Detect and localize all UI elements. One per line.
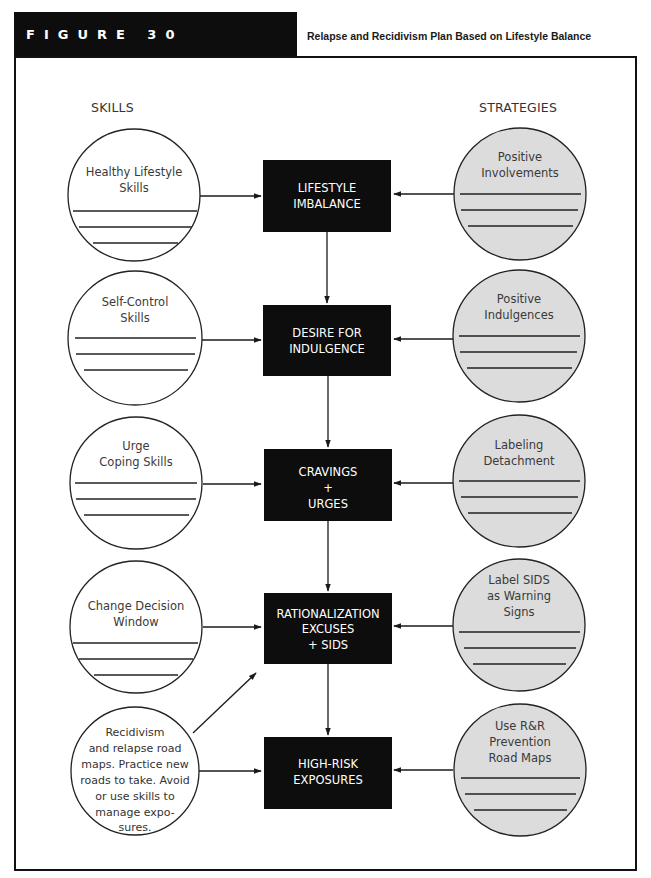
stage-box-cravings-urges: CRAVINGS + URGES — [264, 449, 392, 521]
svg-text:+ SIDS: + SIDS — [308, 638, 348, 652]
svg-text:Healthy Lifestyle: Healthy Lifestyle — [86, 165, 183, 179]
svg-text:LIFESTYLE: LIFESTYLE — [298, 181, 357, 195]
flow-diagram: LIFESTYLE IMBALANCE DESIRE FOR INDULGENC… — [0, 0, 651, 878]
svg-text:Coping Skills: Coping Skills — [99, 455, 172, 469]
svg-text:RATIONALIZATION: RATIONALIZATION — [276, 607, 379, 621]
skill-circle-urge-coping: Urge Coping Skills — [70, 417, 202, 549]
svg-text:Prevention: Prevention — [489, 735, 550, 749]
stage-box-rationalization: RATIONALIZATION EXCUSES + SIDS — [264, 593, 392, 664]
svg-text:Use R&R: Use R&R — [495, 719, 545, 733]
strategy-circle-positive-indulgences: Positive Indulgences — [453, 270, 585, 402]
svg-text:Road Maps: Road Maps — [489, 751, 552, 765]
svg-text:or use skills to: or use skills to — [95, 790, 175, 803]
svg-text:sures.: sures. — [119, 821, 152, 834]
svg-text:Indulgences: Indulgences — [484, 308, 554, 322]
svg-text:Self-Control: Self-Control — [102, 295, 169, 309]
diagonal-arrow — [193, 673, 256, 733]
skill-arrows — [193, 196, 261, 771]
skill-circle-healthy-lifestyle: Healthy Lifestyle Skills — [68, 129, 200, 261]
svg-text:CRAVINGS: CRAVINGS — [299, 465, 358, 479]
skill-circle-self-control: Self-Control Skills — [68, 271, 202, 405]
strategies-circles: Positive Involvements Positive Indulgenc… — [453, 128, 586, 836]
svg-text:HIGH-RISK: HIGH-RISK — [298, 757, 358, 771]
svg-text:Change Decision: Change Decision — [88, 599, 185, 613]
svg-text:Involvements: Involvements — [481, 166, 559, 180]
svg-text:Skills: Skills — [120, 311, 150, 325]
svg-text:INDULGENCE: INDULGENCE — [289, 342, 365, 356]
strategy-circle-positive-involvements: Positive Involvements — [454, 128, 586, 260]
svg-text:Positive: Positive — [497, 292, 541, 306]
svg-text:Urge: Urge — [122, 439, 149, 453]
stage-box-desire-for-indulgence: DESIRE FOR INDULGENCE — [263, 305, 391, 376]
svg-text:Window: Window — [113, 615, 158, 629]
svg-text:IMBALANCE: IMBALANCE — [293, 197, 361, 211]
svg-text:Detachment: Detachment — [483, 454, 555, 468]
svg-text:maps. Practice new: maps. Practice new — [81, 758, 188, 771]
svg-text:manage expo-: manage expo- — [95, 806, 174, 819]
svg-text:DESIRE FOR: DESIRE FOR — [292, 326, 361, 340]
svg-text:Skills: Skills — [119, 181, 149, 195]
svg-text:Positive: Positive — [498, 150, 542, 164]
stage-box-lifestyle-imbalance: LIFESTYLE IMBALANCE — [263, 160, 391, 232]
stage-box-high-risk-exposures: HIGH-RISK EXPOSURES — [264, 737, 392, 809]
skills-circles: Healthy Lifestyle Skills Self-Control Sk… — [68, 129, 202, 835]
skill-circle-road-maps: Recidivism and relapse road maps. Practi… — [71, 707, 199, 835]
strategy-circle-rr-road-maps: Use R&R Prevention Road Maps — [454, 704, 586, 836]
svg-text:and relapse road: and relapse road — [89, 742, 182, 755]
strategy-circle-label-sids: Label SIDS as Warning Signs — [453, 559, 585, 691]
svg-text:Label SIDS: Label SIDS — [488, 573, 550, 587]
svg-text:Recidivism: Recidivism — [105, 726, 164, 739]
svg-text:+: + — [323, 481, 333, 495]
skill-circle-change-decision-window: Change Decision Window — [70, 561, 202, 693]
svg-text:Labeling: Labeling — [495, 438, 544, 452]
strategy-circle-labeling-detachment: Labeling Detachment — [453, 415, 585, 547]
svg-text:Signs: Signs — [503, 605, 534, 619]
svg-text:URGES: URGES — [308, 497, 348, 511]
svg-text:as Warning: as Warning — [487, 589, 551, 603]
strategy-arrows — [394, 194, 454, 770]
svg-text:roads to take. Avoid: roads to take. Avoid — [80, 774, 189, 787]
svg-text:EXPOSURES: EXPOSURES — [293, 773, 362, 787]
svg-text:EXCUSES: EXCUSES — [302, 622, 355, 636]
